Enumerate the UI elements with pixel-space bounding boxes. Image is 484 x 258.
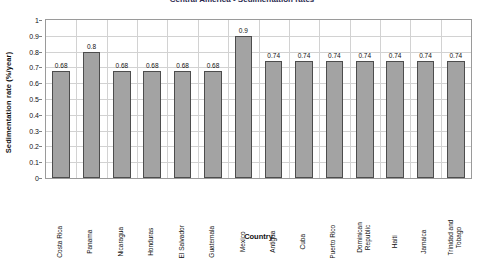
bar	[52, 71, 70, 178]
bar	[265, 61, 283, 178]
category-separator-line	[410, 20, 411, 178]
bar-value-label: 0.68	[146, 62, 159, 69]
bar	[447, 61, 465, 178]
y-axis-tick-label: 0.3	[29, 127, 39, 134]
y-axis-tick-mark	[39, 115, 42, 116]
bar-value-label: 0.74	[449, 52, 462, 59]
category-separator-line	[167, 20, 168, 178]
category-separator-line	[289, 20, 290, 178]
bar	[113, 71, 131, 178]
y-axis-tick-label: 0.8	[29, 48, 39, 55]
bar	[356, 61, 374, 178]
category-separator-line	[228, 20, 229, 178]
y-axis-tick-label: 0.1	[29, 159, 39, 166]
category-separator-line	[441, 20, 442, 178]
bar	[83, 52, 101, 178]
y-axis-tick-mark	[39, 178, 42, 179]
bar	[143, 71, 161, 178]
plot-area: 0.680.80.680.680.680.680.90.740.740.740.…	[45, 19, 472, 179]
y-axis-tick-label: 0.4	[29, 111, 39, 118]
bar-value-label: 0.74	[267, 52, 280, 59]
bar-value-label: 0.74	[358, 52, 371, 59]
x-axis-category-label-text: Puerto Rico	[330, 224, 338, 258]
y-axis-tick-label: 0.9	[29, 32, 39, 39]
bar-value-label: 0.8	[87, 43, 96, 50]
category-separator-line	[319, 20, 320, 178]
category-separator-line	[76, 20, 77, 178]
y-axis-tick-mark	[39, 99, 42, 100]
y-axis-tick-mark	[39, 36, 42, 37]
y-axis-title: Sedimentation rate (%/year)	[2, 27, 16, 177]
x-axis-category-label-text: Nicaragua	[117, 226, 125, 256]
category-separator-line	[259, 20, 260, 178]
bar	[235, 36, 253, 178]
bar-value-label: 0.74	[328, 52, 341, 59]
bar	[204, 71, 222, 178]
category-separator-line	[137, 20, 138, 178]
bar-value-label: 0.74	[389, 52, 402, 59]
y-axis-tick-mark	[39, 52, 42, 53]
bar	[326, 61, 344, 178]
category-separator-line	[350, 20, 351, 178]
y-axis-title-text: Sedimentation rate (%/year)	[5, 51, 14, 152]
bar-value-label: 0.68	[176, 62, 189, 69]
bar-value-label: 0.68	[55, 62, 68, 69]
y-axis-tick-label: 0.7	[29, 64, 39, 71]
y-axis-tick-labels: 10.90.80.70.60.50.40.30.20.10	[16, 19, 42, 179]
bar-value-label: 0.68	[116, 62, 129, 69]
chart-title: Central America - Sedimentation rates	[0, 0, 484, 4]
y-axis-tick-mark	[39, 131, 42, 132]
y-axis-tick-label: 0.6	[29, 80, 39, 87]
bar-value-label: 0.9	[239, 27, 248, 34]
x-axis-category-label-text: Costa Rica	[56, 225, 64, 257]
bar	[174, 71, 192, 178]
bar-value-label: 0.74	[419, 52, 432, 59]
bar-value-label: 0.74	[298, 52, 311, 59]
y-axis-tick-mark	[39, 146, 42, 147]
y-axis-tick-mark	[39, 83, 42, 84]
y-axis-tick-label: 0.5	[29, 96, 39, 103]
x-axis-category-label-text: El Salvador	[178, 225, 186, 258]
category-separator-line	[198, 20, 199, 178]
x-axis-category-label-text: Guatemala	[208, 225, 216, 257]
bar-value-label: 0.68	[207, 62, 220, 69]
bar	[417, 61, 435, 178]
bar	[295, 61, 313, 178]
category-separator-line	[380, 20, 381, 178]
x-axis-title: Country	[45, 232, 472, 241]
y-axis-tick-mark	[39, 67, 42, 68]
y-axis-tick-mark	[39, 162, 42, 163]
bar	[386, 61, 404, 178]
category-separator-line	[107, 20, 108, 178]
y-axis-tick-label: 0.2	[29, 143, 39, 150]
y-axis-tick-mark	[39, 20, 42, 21]
